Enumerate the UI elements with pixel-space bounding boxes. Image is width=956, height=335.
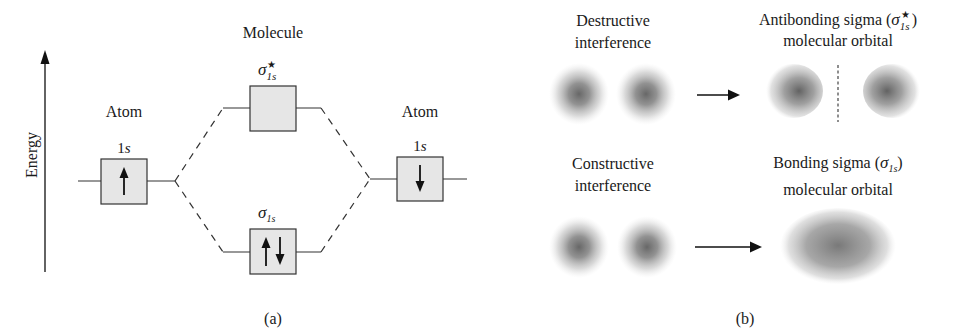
energy-axis-arrow	[41, 50, 50, 272]
label-line: molecular orbital	[738, 181, 938, 199]
label-line: interference	[553, 34, 673, 52]
orbital-number: 1	[413, 138, 421, 154]
label-text: )	[897, 154, 902, 171]
reaction-arrow-bottom	[695, 242, 762, 253]
caption-a: (a)	[248, 310, 298, 328]
destructive-label: Destructive interference	[553, 12, 673, 52]
atom-cloud-constructive-1	[549, 216, 609, 278]
left-atom-label: Atom	[94, 103, 154, 121]
molecule-label: Molecule	[223, 24, 323, 42]
atom-cloud-destructive-2	[616, 63, 676, 125]
subscript: 1s	[900, 17, 910, 35]
left-atom-orbital-label: 1s	[104, 139, 144, 157]
antibonding-orbital-label: σ★1s	[258, 61, 278, 79]
orbital-number: 1	[117, 140, 125, 156]
bonding-mo-label: Bonding sigma (σ1s) molecular orbital	[738, 154, 938, 199]
subscript: 1s	[888, 163, 897, 174]
caption-b: (b)	[720, 310, 770, 328]
antibonding-lobe-left	[763, 64, 823, 118]
right-atom-level	[370, 157, 467, 201]
left-atom-level	[78, 159, 175, 204]
label-line: interference	[553, 177, 673, 195]
bonding-orbital-cloud	[780, 208, 896, 286]
atom-cloud-constructive-2	[617, 216, 677, 278]
subscript: 1s	[266, 67, 276, 85]
label-line: Destructive	[553, 12, 673, 30]
label-line: Constructive	[553, 155, 673, 173]
orbital-letter: s	[421, 138, 427, 154]
antibonding-level	[223, 86, 321, 131]
sigma-symbol: σ	[891, 10, 899, 29]
right-atom-label: Atom	[390, 103, 450, 121]
bonding-level	[223, 229, 321, 274]
bonding-orbital-label: σ1s	[258, 204, 275, 228]
reaction-arrow-top	[697, 90, 740, 101]
right-atom-orbital-label: 1s	[400, 137, 440, 155]
subscript: 1s	[266, 213, 275, 224]
antibonding-lobe-right	[863, 64, 923, 118]
atom-cloud-destructive-1	[549, 63, 609, 125]
orbital-letter: s	[125, 140, 131, 156]
label-text: Bonding sigma (	[773, 154, 880, 171]
sigma-symbol: σ	[258, 60, 266, 79]
label-line: molecular orbital	[728, 32, 948, 50]
constructive-label: Constructive interference	[553, 155, 673, 195]
label-text: Antibonding sigma (	[759, 11, 891, 28]
energy-axis-label: Energy	[23, 125, 41, 185]
antibonding-mo-label: Antibonding sigma (σ★1s) molecular orbit…	[728, 11, 948, 50]
label-text: )	[912, 11, 917, 28]
